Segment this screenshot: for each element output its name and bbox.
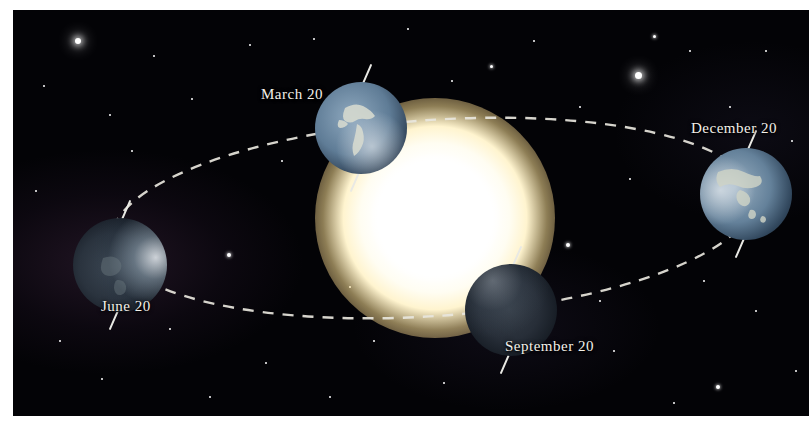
earth-march xyxy=(315,82,407,174)
star xyxy=(566,243,570,247)
star xyxy=(703,280,705,282)
star xyxy=(795,370,797,372)
earth-december xyxy=(700,148,792,240)
star xyxy=(407,28,409,30)
star xyxy=(373,340,375,342)
star xyxy=(169,328,171,330)
star xyxy=(613,350,615,352)
sun-core xyxy=(377,160,493,276)
star xyxy=(673,402,675,404)
star xyxy=(313,38,315,40)
star xyxy=(729,106,731,108)
star xyxy=(533,40,535,42)
star xyxy=(227,253,231,257)
star xyxy=(329,396,331,398)
star xyxy=(629,178,631,180)
label-march: March 20 xyxy=(261,86,323,103)
figure-canvas: March 20 June 20 September 20 xyxy=(0,0,809,427)
star xyxy=(716,385,720,389)
star xyxy=(209,396,211,398)
globe xyxy=(315,82,407,174)
star xyxy=(109,114,111,116)
space-scene: March 20 June 20 September 20 xyxy=(13,10,809,416)
continents xyxy=(700,148,792,240)
star xyxy=(249,44,251,46)
star xyxy=(765,50,767,52)
star xyxy=(689,50,691,52)
star xyxy=(35,190,37,192)
star xyxy=(579,106,581,108)
label-september: September 20 xyxy=(505,338,594,355)
star xyxy=(490,65,493,68)
star xyxy=(265,362,267,364)
star xyxy=(43,85,45,87)
star xyxy=(153,55,155,57)
star xyxy=(791,140,793,142)
star xyxy=(635,72,642,79)
star xyxy=(755,310,757,312)
star xyxy=(281,160,283,162)
star xyxy=(59,340,61,342)
star xyxy=(599,300,601,302)
star xyxy=(191,98,193,100)
star xyxy=(75,38,81,44)
star xyxy=(443,382,445,384)
label-june: June 20 xyxy=(101,298,151,315)
label-december: December 20 xyxy=(691,120,777,137)
star xyxy=(653,35,656,38)
continents xyxy=(315,82,407,174)
star xyxy=(451,80,453,82)
star xyxy=(131,150,133,152)
star xyxy=(101,378,103,380)
globe xyxy=(700,148,792,240)
